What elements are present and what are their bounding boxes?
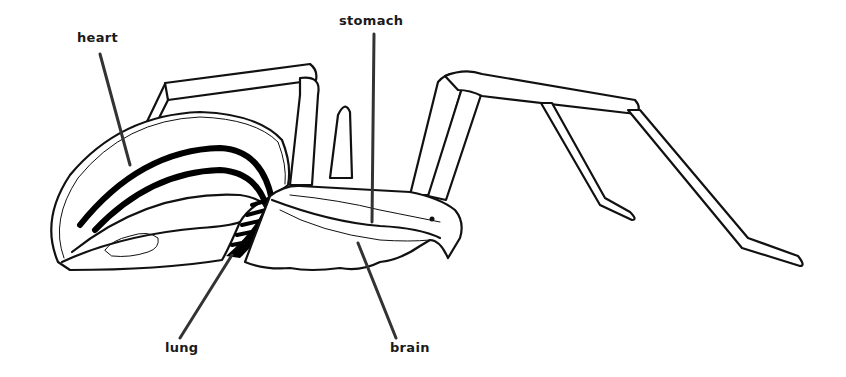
label-lung: lung <box>165 340 198 355</box>
leader-lung <box>180 255 232 338</box>
leg-front-2 <box>428 71 803 266</box>
leg-middle <box>330 107 352 178</box>
label-brain: brain <box>390 340 430 355</box>
label-stomach: stomach <box>339 13 403 28</box>
cephalothorax <box>245 186 462 270</box>
spider-anatomy-drawing <box>0 0 846 377</box>
leader-stomach <box>372 34 374 222</box>
label-heart: heart <box>77 30 118 45</box>
